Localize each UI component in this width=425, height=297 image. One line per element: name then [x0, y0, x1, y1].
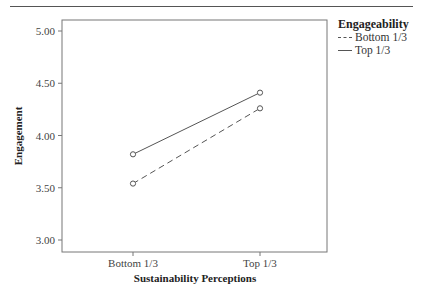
legend: Engageability Bottom 1/3 Top 1/3 — [338, 18, 409, 57]
y-axis-title: Engagement — [12, 106, 24, 165]
x-axis: Bottom 1/3Top 1/3 — [108, 252, 277, 269]
series-lines — [130, 90, 262, 186]
series-line — [133, 93, 260, 155]
dashed-line-icon — [338, 37, 352, 38]
y-axis: 3.003.504.004.505.00 — [36, 25, 62, 246]
legend-title: Engageability — [338, 18, 409, 31]
solid-line-icon — [338, 50, 352, 51]
data-point-marker — [257, 90, 262, 95]
legend-item-top: Top 1/3 — [338, 44, 409, 57]
plot-frame — [62, 20, 327, 252]
y-tick-label: 4.00 — [36, 130, 56, 142]
data-point-marker — [130, 181, 135, 186]
data-point-marker — [130, 152, 135, 157]
data-point-marker — [257, 106, 262, 111]
y-tick-label: 4.50 — [36, 77, 56, 89]
series-line — [133, 108, 260, 183]
x-tick-label: Top 1/3 — [243, 257, 277, 269]
y-tick-label: 3.00 — [36, 234, 56, 246]
legend-label: Bottom 1/3 — [355, 31, 407, 44]
x-tick-label: Bottom 1/3 — [108, 257, 158, 269]
legend-label: Top 1/3 — [355, 44, 390, 57]
legend-item-bottom: Bottom 1/3 — [338, 31, 409, 44]
y-tick-label: 5.00 — [36, 25, 56, 37]
y-tick-label: 3.50 — [36, 182, 56, 194]
x-axis-title: Sustainability Perceptions — [134, 272, 257, 284]
